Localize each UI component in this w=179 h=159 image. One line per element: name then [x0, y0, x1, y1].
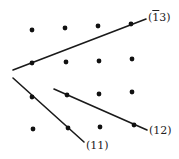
lattice-point	[30, 95, 35, 100]
label-13bar-rest: 3)	[159, 11, 170, 24]
lattice-point	[64, 60, 69, 65]
lattice-point	[66, 126, 71, 131]
lattice-point	[130, 57, 135, 62]
label-13bar: (13)	[148, 12, 171, 24]
lattice-point	[30, 28, 35, 33]
lattice-point	[31, 127, 36, 132]
lattice-point	[129, 22, 134, 27]
lattice-point	[97, 59, 102, 64]
lattice-point	[63, 26, 68, 31]
lattice-point	[65, 93, 70, 98]
lattice-point	[130, 90, 135, 95]
lattice-point	[98, 125, 103, 130]
lattice-point	[132, 123, 137, 128]
lattice-point	[30, 61, 35, 66]
line-11	[13, 78, 84, 142]
label-12: (12)	[149, 125, 172, 137]
label-11: (11)	[86, 140, 109, 152]
lattice-diagram: (13) (11) (12)	[0, 0, 179, 159]
lattice-point	[97, 92, 102, 97]
lattice-point	[96, 24, 101, 29]
